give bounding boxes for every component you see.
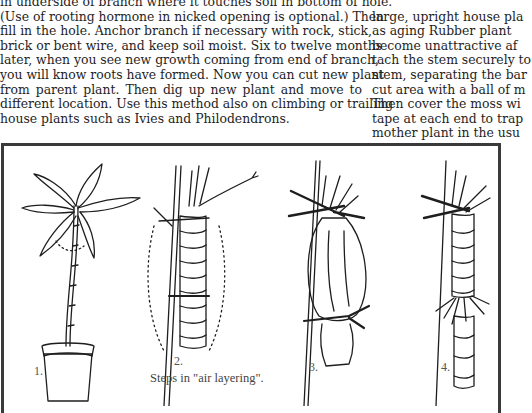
text-line: tach the stem securely to [372,53,532,68]
air-layering-illustrations [4,146,504,406]
text-line: house plants such as Ivies and Philodend… [0,112,362,127]
step-label-1: 1. [34,364,43,379]
text-line: cut area with a ball of m [372,83,532,98]
rooted-stem-icon [422,161,490,406]
text-line: brick or bent wire, and keep soil moist.… [0,39,362,54]
text-line: you will know roots have formed. Now you… [0,68,362,83]
text-line: mother plant in the usu [372,126,532,141]
text-line: become unattractive af [372,39,532,54]
text-line: (Use of rooting hormone in nicked openin… [0,10,362,25]
plastic-wrapped-moss-icon [289,161,369,406]
step-label-3: 3. [309,360,318,375]
right-text-column: large, upright house pla as aging Rubber… [372,0,532,141]
text-line: Then cover the moss wi [372,97,532,112]
text-line: tape at each end to trap [372,112,532,127]
left-text-column: in underside of branch where it touches … [0,0,362,126]
figure-caption: Steps in "air layering". [150,371,264,386]
air-layering-figure-frame: 1. 2. 3. 4. Steps in "air layering". [1,143,501,413]
text-line: stem, separating the bar [372,68,532,83]
text-line: as aging Rubber plant [372,24,532,39]
text-line: later, when you see new growth coming fr… [0,53,362,68]
text-line: large, upright house pla [372,10,532,25]
text-line: fill in the hole. Anchor branch if neces… [0,24,362,39]
step-label-2: 2. [174,354,183,369]
text-line: different location. Use this method also… [0,97,362,112]
step-label-4: 4. [441,360,450,375]
text-line: from parent plant. Then dig up new plant… [0,83,362,98]
moss-wrapped-stem-icon [148,166,258,406]
